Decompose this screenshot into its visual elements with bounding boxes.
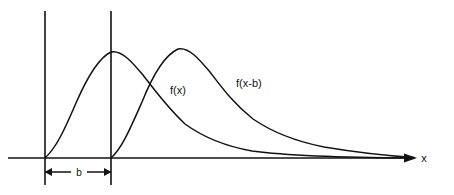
figure-canvas: b f(x) f(x-b) x xyxy=(0,0,454,195)
curve-label-f-of-x: f(x) xyxy=(170,84,186,96)
curve-f-of-x-minus-b xyxy=(111,49,414,158)
curve-label-f-of-x-minus-b: f(x-b) xyxy=(236,77,262,89)
curve-f-of-x xyxy=(45,52,410,158)
dimension-label-b: b xyxy=(76,167,82,178)
x-axis-label: x xyxy=(421,152,427,164)
density-shift-diagram: b f(x) f(x-b) x xyxy=(0,0,454,195)
